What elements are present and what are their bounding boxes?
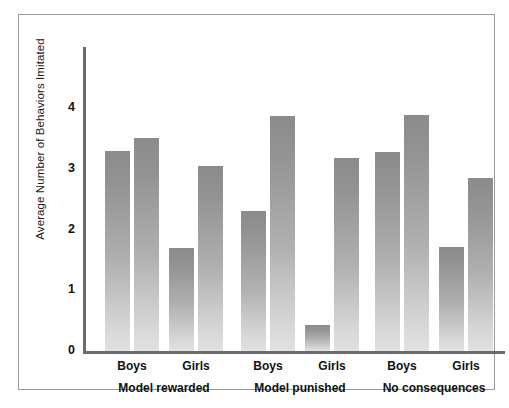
bar-no-consequences-boys-0 <box>375 152 400 351</box>
bar-no-consequences-girls-0 <box>439 247 464 351</box>
y-tick-2: 2 <box>49 223 75 236</box>
bar-model-punished-boys-1 <box>270 116 295 351</box>
figure-canvas: Average Number of Behaviors Imitated 012… <box>0 0 509 408</box>
y-axis-line <box>83 47 86 353</box>
bar-no-consequences-girls-1 <box>468 178 493 351</box>
x-label-sex-5: Girls <box>421 359 509 373</box>
bar-model-rewarded-boys-0 <box>105 151 130 351</box>
bar-model-rewarded-girls-1 <box>198 166 223 351</box>
x-axis-line <box>83 351 505 354</box>
y-tick-4: 4 <box>49 101 75 114</box>
y-tick-3: 3 <box>49 162 75 175</box>
bar-model-punished-girls-1 <box>334 158 359 351</box>
chart-frame: Average Number of Behaviors Imitated 012… <box>18 14 495 390</box>
bar-model-rewarded-boys-1 <box>134 138 159 351</box>
bar-model-punished-girls-0 <box>305 325 330 351</box>
y-axis-title: Average Number of Behaviors Imitated <box>34 0 46 279</box>
x-label-condition-2: No consequences <box>354 381 509 395</box>
y-tick-1: 1 <box>49 283 75 296</box>
bar-no-consequences-boys-1 <box>404 115 429 351</box>
y-tick-0: 0 <box>49 344 75 357</box>
bar-model-rewarded-girls-0 <box>169 248 194 351</box>
bar-model-punished-boys-0 <box>241 211 266 351</box>
